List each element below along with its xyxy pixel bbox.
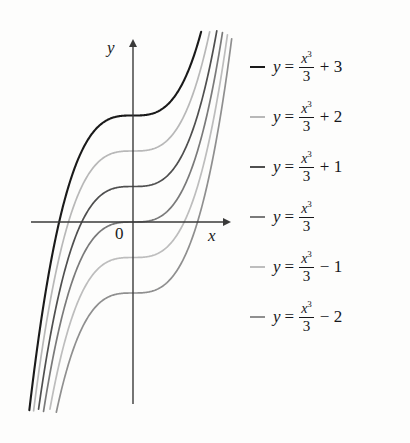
legend-color-swatch [250,216,265,218]
curve [39,31,217,409]
exponent: 3 [307,299,312,309]
equation-lhs: y [273,57,281,77]
fraction: x33 [299,100,314,134]
equals-sign: = [285,207,295,227]
legend-color-swatch [250,316,265,318]
fraction-numerator: x3 [299,100,314,117]
legend-item: y=x33+ 2 [250,92,410,142]
equation-lhs: y [273,157,281,177]
exponent: 3 [307,149,312,159]
equals-sign: = [285,257,295,277]
fraction-numerator: x3 [299,200,314,217]
equation-lhs: y [273,307,281,327]
constant-term: − 1 [320,257,342,277]
fraction: x33 [299,150,314,184]
legend-color-swatch [250,116,265,118]
fraction-denominator: 3 [301,168,313,184]
legend-equation: y=x33 [273,200,315,234]
fraction-denominator: 3 [301,118,313,134]
legend-equation: y=x33+ 1 [273,150,342,184]
legend-item: y=x33− 2 [250,292,410,342]
fraction: x33 [299,250,314,284]
legend-color-swatch [250,266,265,268]
exponent: 3 [307,249,312,259]
equals-sign: = [285,307,295,327]
axes-group [31,46,224,404]
constant-term: + 3 [320,57,342,77]
legend-equation: y=x33− 2 [273,300,342,334]
legend-item: y=x33+ 1 [250,142,410,192]
legend-color-swatch [250,66,265,68]
fraction-numerator: x3 [299,150,314,167]
equation-lhs: y [273,257,281,277]
exponent: 3 [307,49,312,59]
constant-term: + 1 [320,157,342,177]
legend-equation: y=x33+ 3 [273,50,342,84]
legend: y=x33+ 3y=x33+ 2y=x33+ 1y=x33y=x33− 1y=x… [250,42,410,342]
fraction-numerator: x3 [299,250,314,267]
fraction: x33 [299,300,314,334]
equals-sign: = [285,57,295,77]
equation-lhs: y [273,107,281,127]
equation-lhs: y [273,207,281,227]
x-axis-label: x [208,226,216,246]
curve [29,32,201,410]
origin-label: 0 [115,224,124,244]
legend-item: y=x33− 1 [250,242,410,292]
y-axis-label: y [107,38,115,58]
exponent: 3 [307,99,312,109]
constant-term: + 2 [320,107,342,127]
legend-equation: y=x33− 1 [273,250,342,284]
fraction-denominator: 3 [301,268,313,284]
curve [56,39,231,412]
legend-item: y=x33+ 3 [250,42,410,92]
legend-item: y=x33 [250,192,410,242]
equals-sign: = [285,107,295,127]
fraction-numerator: x3 [299,50,314,67]
fraction: x33 [299,200,314,234]
fraction-denominator: 3 [301,68,313,84]
fraction-denominator: 3 [301,218,313,234]
constant-term: − 2 [320,307,342,327]
fraction-denominator: 3 [301,318,313,334]
fraction-numerator: x3 [299,300,314,317]
fraction: x33 [299,50,314,84]
exponent: 3 [307,199,312,209]
legend-equation: y=x33+ 2 [273,100,342,134]
figure-antiderivative-family: y x 0 y=x33+ 3y=x33+ 2y=x33+ 1y=x33y=x33… [0,0,410,443]
legend-color-swatch [250,166,265,168]
equals-sign: = [285,157,295,177]
